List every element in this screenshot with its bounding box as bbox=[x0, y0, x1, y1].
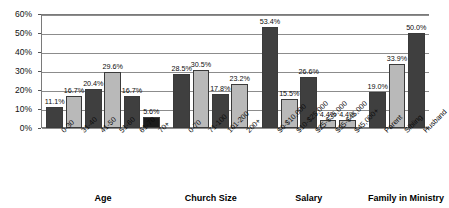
bar-value-label: 33.9% bbox=[384, 55, 410, 62]
bar-value-label: 17.8% bbox=[207, 85, 233, 92]
y-axis-tick-label: 20% bbox=[15, 86, 32, 95]
bar-value-label: 29.6% bbox=[100, 63, 126, 70]
bar-value-label: 11.1% bbox=[42, 98, 68, 105]
bar-value-label: 16.7% bbox=[119, 87, 145, 94]
bar-value-label: 20.4% bbox=[80, 80, 106, 87]
bar bbox=[262, 27, 279, 128]
y-axis-tick-label: 0% bbox=[20, 124, 32, 133]
bar bbox=[46, 107, 63, 128]
group-title: Age bbox=[45, 193, 161, 203]
bar bbox=[173, 74, 190, 128]
y-axis-tick-label: 60% bbox=[15, 10, 32, 19]
bar-value-label: 23.2% bbox=[227, 75, 253, 82]
y-axis-tick-mark bbox=[38, 128, 41, 129]
group-title: Family in Ministry bbox=[368, 193, 426, 203]
bar-value-label: 19.0% bbox=[365, 83, 391, 90]
group-title: Salary bbox=[260, 193, 357, 203]
bar-value-label: 30.5% bbox=[188, 61, 214, 68]
y-axis-tick-label: 40% bbox=[15, 48, 32, 57]
y-axis: 0%10%20%30%40%50%60% bbox=[0, 14, 38, 128]
y-axis-tick-label: 50% bbox=[15, 29, 32, 38]
bar-value-label: 15.5% bbox=[276, 90, 302, 97]
bar-value-label: 16.7% bbox=[61, 87, 87, 94]
x-axis-category-labels: 0-3031-4041-5051-6061-7070+0-7071-100101… bbox=[42, 129, 429, 177]
y-axis-tick-label: 10% bbox=[15, 105, 32, 114]
bar-value-label: 50.0% bbox=[403, 24, 429, 31]
bar-value-label: 5.6% bbox=[138, 108, 164, 115]
bar-value-label: 53.4% bbox=[257, 18, 283, 25]
y-axis-tick-label: 30% bbox=[15, 67, 32, 76]
group-title: Church Size bbox=[172, 193, 249, 203]
bar-value-label: 26.6% bbox=[296, 68, 322, 75]
